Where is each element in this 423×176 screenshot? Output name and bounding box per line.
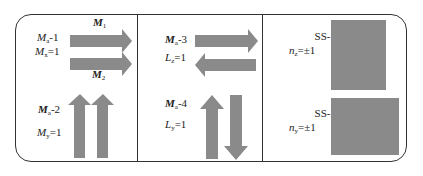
arrow-right-icon [70,29,132,53]
arrow-up-icon [91,94,114,158]
arrows-layer [0,0,423,176]
arrow-right-icon [70,52,132,76]
arrow-left-icon [195,53,256,77]
arrow-up-icon [68,94,91,158]
arrow-up-icon [200,95,224,159]
arrow-down-icon [224,95,248,160]
arrow-right-icon [195,29,258,53]
